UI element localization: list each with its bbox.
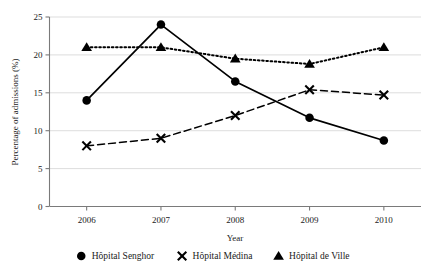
y-tick-label: 5: [38, 164, 43, 174]
x-tick-label: 2009: [301, 215, 320, 225]
chart-legend: Hôpital SenghorHôpital MédinaHôpital de …: [77, 251, 350, 261]
x-tick-label: 2010: [375, 215, 394, 225]
marker-circle: [157, 20, 166, 29]
y-tick-label: 10: [34, 126, 44, 136]
y-axis-title: Percentage of admissions (%): [10, 58, 20, 165]
chart-figure: 0510152025 Percentage of admissions (%) …: [0, 0, 434, 273]
marker-circle: [380, 136, 389, 145]
x-tick-label: 2008: [226, 215, 245, 225]
x-tick-label: 2006: [78, 215, 97, 225]
legend-label: Hôpital Médina: [193, 251, 254, 261]
legend-label: Hôpital Senghor: [92, 251, 155, 261]
marker-circle: [231, 77, 240, 86]
marker-circle: [77, 252, 86, 261]
marker-circle: [82, 96, 91, 105]
marker-circle: [305, 114, 314, 123]
legend-label: Hôpital de Ville: [289, 251, 349, 261]
x-axis-title: Year: [227, 233, 244, 243]
y-tick-label: 20: [34, 50, 44, 60]
line-chart: 0510152025 Percentage of admissions (%) …: [0, 0, 434, 273]
x-tick-label: 2007: [152, 215, 171, 225]
y-tick-label: 15: [34, 88, 44, 98]
y-tick-label: 0: [38, 202, 43, 212]
y-tick-label: 25: [34, 12, 44, 22]
